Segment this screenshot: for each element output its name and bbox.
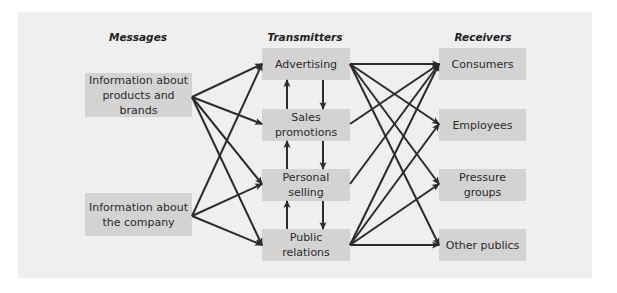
column-header-transmitters: Transmitters — [250, 31, 360, 43]
transmitter-personal-selling: Personal selling — [262, 169, 350, 201]
message-label-line1: Information about — [89, 73, 188, 88]
receiver-consumers: Consumers — [439, 48, 526, 80]
message-label-line1: Information about — [89, 200, 188, 215]
receiver-employees: Employees — [439, 109, 526, 141]
message-label-line2: the company — [102, 215, 174, 230]
message-company: Information about the company — [85, 193, 192, 236]
column-header-messages: Messages — [83, 31, 193, 43]
transmitter-sales-promotions: Sales promotions — [262, 109, 350, 141]
column-header-receivers: Receivers — [428, 31, 538, 43]
receiver-pressure-groups: Pressure groups — [439, 169, 526, 201]
message-products-and-brands: Information about products and brands — [85, 73, 192, 117]
transmitter-advertising: Advertising — [262, 48, 350, 80]
receiver-other-publics: Other publics — [439, 229, 526, 261]
transmitter-public-relations: Public relations — [262, 229, 350, 261]
message-label-line2: products and brands — [88, 88, 189, 118]
